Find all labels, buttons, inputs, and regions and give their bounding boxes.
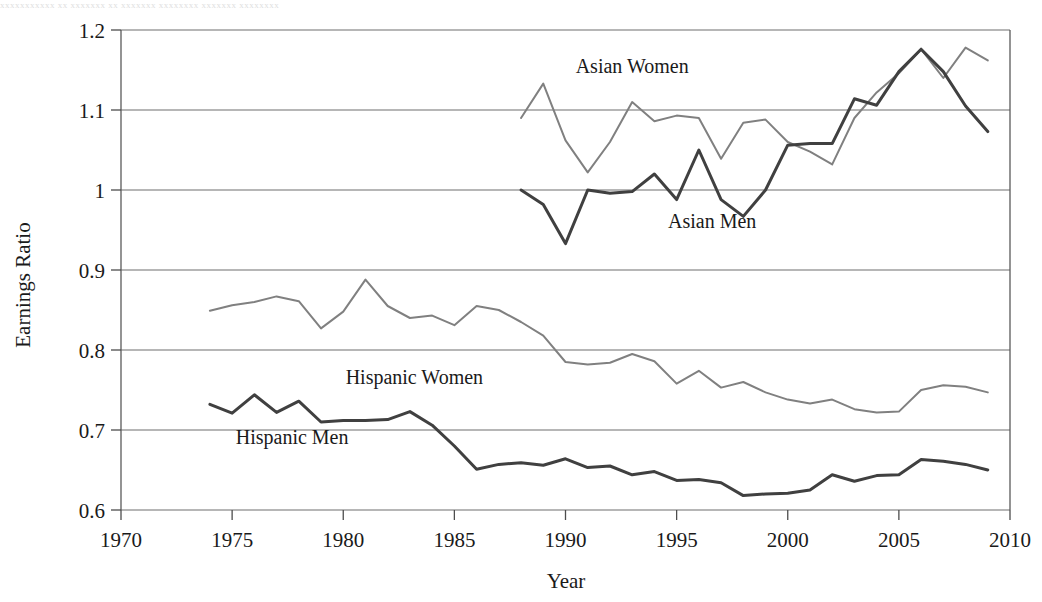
- series-annotations: Asian WomenAsian MenHispanic WomenHispan…: [236, 55, 757, 448]
- series-label-hispanic-men: Hispanic Men: [236, 426, 349, 449]
- y-axis-tick-labels: 0.60.70.80.911.11.2: [79, 19, 105, 523]
- x-tick-label-1975: 1975: [211, 528, 253, 552]
- y-tick-label-1.2: 1.2: [79, 19, 105, 43]
- x-axis-tick-labels: 197019751980198519901995200020052010: [100, 528, 1031, 552]
- y-tick-label-0.9: 0.9: [79, 259, 105, 283]
- y-axis-title: Earnings Ratio: [11, 222, 35, 347]
- series-label-asian-women: Asian Women: [576, 55, 689, 77]
- x-tick-label-1985: 1985: [433, 528, 475, 552]
- x-tick-label-1990: 1990: [545, 528, 587, 552]
- series-label-asian-men: Asian Men: [668, 210, 756, 232]
- y-tick-label-0.7: 0.7: [79, 419, 105, 443]
- earnings-ratio-line-chart: 0.60.70.80.911.11.2 19701975198019851990…: [0, 0, 1042, 602]
- x-tick-label-1970: 1970: [100, 528, 142, 552]
- x-axis-title: Year: [547, 569, 586, 593]
- x-tick-label-2005: 2005: [878, 528, 920, 552]
- y-tick-label-1.1: 1.1: [79, 99, 105, 123]
- x-tick-label-1980: 1980: [322, 528, 364, 552]
- y-tick-label-1: 1: [95, 179, 106, 203]
- cropped-header-text: xxxxxxxxxxx xx xxxxxxx xx xxxxxxx xxxxxx…: [0, 0, 1042, 14]
- x-tick-label-1995: 1995: [656, 528, 698, 552]
- x-tick-label-2010: 2010: [989, 528, 1031, 552]
- chart-container: xxxxxxxxxxx xx xxxxxxx xx xxxxxxx xxxxxx…: [0, 0, 1042, 602]
- y-tick-label-0.6: 0.6: [79, 499, 105, 523]
- series-line-hispanic-women: [210, 280, 988, 413]
- series-label-hispanic-women: Hispanic Women: [346, 366, 483, 389]
- y-tick-label-0.8: 0.8: [79, 339, 105, 363]
- x-tick-label-2000: 2000: [767, 528, 809, 552]
